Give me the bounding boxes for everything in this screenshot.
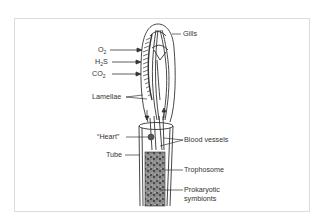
label-tube: Tube: [106, 151, 122, 159]
label-h2s: H2S: [95, 58, 108, 68]
label-blood-vessels: Blood vessels: [184, 136, 228, 144]
label-lamellae: Lamellae: [92, 93, 121, 101]
gill-plume: [141, 24, 175, 122]
trophosome-mass: [145, 152, 165, 206]
label-co2: CO2: [92, 70, 106, 80]
label-trophosome: Trophosome: [184, 166, 224, 174]
label-heart: “Heart”: [97, 133, 119, 141]
lamellae-comb: [143, 34, 152, 100]
heart-shape: [148, 134, 154, 140]
label-gills: Gills: [183, 30, 197, 38]
label-prokaryotic: Prokaryotic: [184, 186, 220, 194]
tube-worm-illustration: [0, 0, 320, 224]
input-arrows: [110, 48, 142, 76]
label-o2: O2: [98, 46, 106, 56]
label-symbionts: symbionts: [184, 195, 216, 203]
